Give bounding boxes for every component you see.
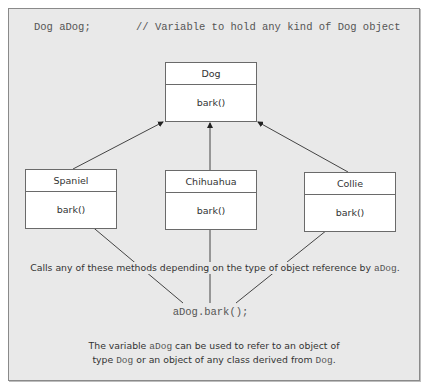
class-name: Chihuahua [166,171,256,193]
class-collie: Collie bark() [304,172,396,232]
method-call-code: aDog.bark(); [0,306,421,318]
class-method: bark() [166,193,256,229]
class-spaniel: Spaniel bark() [25,169,117,229]
class-method: bark() [305,195,395,231]
class-name: Spaniel [26,170,116,192]
class-dog: Dog bark() [165,62,257,122]
class-name: Dog [166,63,256,85]
class-method: bark() [26,192,116,228]
variable-note-line2: type Dog or an object of any class deriv… [8,354,420,366]
variable-note-line1: The variable aDog can be used to refer t… [8,340,420,352]
class-chihuahua: Chihuahua bark() [165,170,257,230]
class-method: bark() [166,85,256,121]
class-name: Collie [305,173,395,195]
dispatch-caption: Calls any of these methods depending on … [30,262,400,274]
